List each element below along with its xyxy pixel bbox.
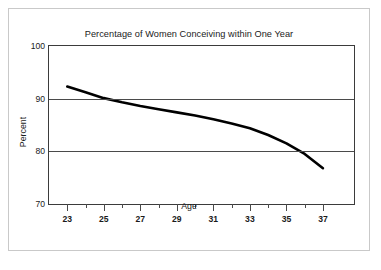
y-axis-title: Percent	[18, 117, 28, 147]
y-tick-label-90: 90	[35, 94, 45, 104]
x-tick-label-29: 29	[172, 214, 182, 224]
x-tick-label-25: 25	[99, 214, 109, 224]
plot-area: 7080901002325272931333537	[48, 45, 355, 205]
x-axis-title: Age	[9, 201, 369, 211]
x-tick-label-23: 23	[62, 214, 72, 224]
x-tick-label-31: 31	[209, 214, 219, 224]
gridline-y-90	[49, 99, 354, 100]
chart-title: Percentage of Women Conceiving within On…	[9, 29, 369, 39]
x-tick-label-35: 35	[282, 214, 292, 224]
y-tick-label-80: 80	[35, 146, 45, 156]
data-series-layer	[49, 46, 354, 204]
plot-inner: 7080901002325272931333537	[49, 46, 354, 204]
y-tick-label-100: 100	[31, 41, 45, 51]
gridline-y-80	[49, 151, 354, 152]
figure-container: Percentage of Women Conceiving within On…	[8, 8, 370, 251]
x-tick-label-27: 27	[136, 214, 146, 224]
x-tick-label-37: 37	[318, 214, 328, 224]
x-tick-label-33: 33	[245, 214, 255, 224]
